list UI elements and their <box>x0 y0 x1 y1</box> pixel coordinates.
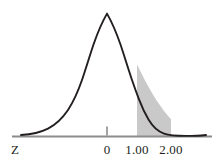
tick-label-1: 1.00 <box>125 143 149 156</box>
distribution-plot <box>0 0 215 164</box>
tick-label-2: 2.00 <box>159 143 183 156</box>
axis-variable-label: Z <box>11 143 19 156</box>
bell-curve-path <box>21 14 206 136</box>
normal-distribution-figure: Z 0 1.00 2.00 <box>0 0 215 164</box>
tick-label-0: 0 <box>104 143 111 156</box>
shaded-area-region <box>137 65 171 137</box>
